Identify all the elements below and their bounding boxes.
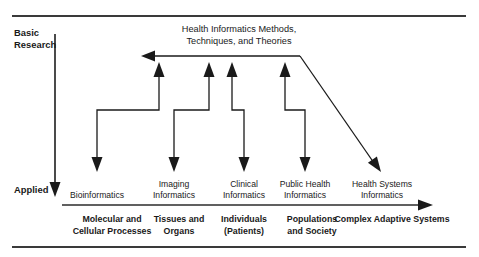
domain-label-bioinformatics-line2: Cellular Processes <box>73 226 152 236</box>
y-axis-bottom-label: Applied <box>14 184 49 195</box>
domain-label-public-health-informatics-line2: and Society <box>287 226 336 236</box>
domain-label-bioinformatics: Molecular andCellular Processes <box>73 214 152 236</box>
domain-label-imaging-informatics-line2: Organs <box>164 226 195 236</box>
domain-label-clinical-informatics-line1: Individuals <box>221 214 267 224</box>
column-label-public-health-informatics: Public HealthInformatics <box>280 179 331 200</box>
domain-label-public-health-informatics-line1: Populations <box>287 214 337 224</box>
domain-label-imaging-informatics-line1: Tissues and <box>154 214 205 224</box>
domain-label-public-health-informatics: Populationsand Society <box>287 214 337 236</box>
column-label-clinical-informatics-line1: Clinical <box>230 179 258 189</box>
feedback-flow-group <box>92 62 311 172</box>
y-axis-labels: Basic Research Applied <box>14 27 56 195</box>
diagonal-flow <box>300 56 381 172</box>
domain-label-clinical-informatics-line2: (Patients) <box>224 226 264 236</box>
figure-title-line1: Health Informatics Methods, <box>182 24 296 34</box>
y-axis-top-label-line2: Research <box>14 39 56 50</box>
flow-bioinformatics-path <box>97 71 159 163</box>
column-label-public-health-informatics-line2: Informatics <box>284 190 326 200</box>
column-label-imaging-informatics-line2: Informatics <box>153 190 195 200</box>
column-label-clinical-informatics: ClinicalInformatics <box>223 179 265 200</box>
flow-public-health <box>280 62 311 172</box>
diagonal-flow-line <box>300 56 374 163</box>
health-informatics-continuum-diagram: Health Informatics Methods, Techniques, … <box>0 0 479 257</box>
domain-label-group: Molecular andCellular ProcessesTissues a… <box>73 214 450 236</box>
flow-bioinformatics-up-arrowhead <box>154 62 165 77</box>
domain-label-clinical-informatics: Individuals(Patients) <box>221 214 267 236</box>
domain-label-imaging-informatics: Tissues andOrgans <box>154 214 205 236</box>
flow-bioinformatics <box>92 62 165 172</box>
flow-bioinformatics-down-arrowhead <box>92 157 103 172</box>
flow-public-health-down-arrowhead <box>300 157 311 172</box>
y-axis <box>50 34 61 197</box>
flow-clinical-up-arrowhead <box>227 62 238 77</box>
domain-label-bioinformatics-line1: Molecular and <box>82 214 141 224</box>
flow-imaging-path <box>174 71 209 163</box>
column-label-clinical-informatics-line2: Informatics <box>223 190 265 200</box>
flow-clinical-path <box>232 71 244 163</box>
column-label-health-systems-informatics-line1: Health Systems <box>352 179 412 189</box>
domain-label-health-systems-informatics-line1: Complex Adaptive Systems <box>334 214 449 224</box>
methods-trunk-arrowhead <box>141 51 155 62</box>
column-label-bioinformatics-line1: Bioinformatics <box>70 190 124 200</box>
column-label-imaging-informatics-line1: Imaging <box>159 179 190 189</box>
domain-label-health-systems-informatics: Complex Adaptive Systems <box>334 214 449 224</box>
flow-imaging-down-arrowhead <box>169 157 180 172</box>
figure-title: Health Informatics Methods, Techniques, … <box>182 24 296 46</box>
y-axis-arrowhead <box>50 182 61 197</box>
y-axis-top-label-line1: Basic <box>14 27 39 38</box>
column-label-bioinformatics: Bioinformatics <box>70 190 124 200</box>
flow-imaging-up-arrowhead <box>204 62 215 77</box>
flow-public-health-up-arrowhead <box>280 62 291 77</box>
flow-public-health-path <box>285 71 305 163</box>
figure-title-line2: Techniques, and Theories <box>186 36 291 46</box>
column-label-public-health-informatics-line1: Public Health <box>280 179 331 189</box>
column-label-health-systems-informatics-line2: Informatics <box>361 190 403 200</box>
flow-imaging <box>169 62 215 172</box>
column-label-imaging-informatics: ImagingInformatics <box>153 179 195 200</box>
flow-clinical <box>227 62 250 172</box>
diagonal-flow-arrowhead <box>368 157 381 172</box>
methods-trunk-flow <box>141 51 300 62</box>
flow-clinical-down-arrowhead <box>239 157 250 172</box>
figure-root: Health Informatics Methods, Techniques, … <box>0 0 479 257</box>
column-label-health-systems-informatics: Health SystemsInformatics <box>352 179 412 200</box>
column-label-group: BioinformaticsImagingInformaticsClinical… <box>70 179 412 200</box>
